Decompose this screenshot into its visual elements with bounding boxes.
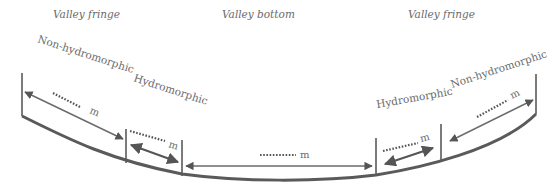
width-unit-bottom: m [300,149,310,160]
width-placeholder-right-hydro [383,143,418,151]
width-unit-left-non-hydro: m [88,105,101,119]
sub-label-left-non-hydromorphic: Non-hydromorphic [36,32,135,75]
width-unit-right-hydro: m [419,131,431,144]
width-placeholder-left-non-hydro [53,93,80,107]
valley-cross-section-diagram: Valley fringe Valley bottom Valley fring… [0,0,555,185]
sub-label-left-hydromorphic: Hydromorphic [132,71,209,106]
zone-label-right-fringe: Valley fringe [408,8,475,20]
zone-label-left-fringe: Valley fringe [53,8,120,20]
width-unit-left-hydro: m [167,138,180,152]
width-arrow-right-non-hydro [450,100,533,141]
width-placeholder-left-hydro [130,131,165,141]
width-arrow-right-hydro [385,148,433,164]
width-unit-right-non-hydro: m [508,87,522,101]
width-arrow-left-non-hydro [25,92,123,139]
sub-label-right-hydromorphic: Hydromorphic [375,85,453,110]
valley-ground-profile [22,114,536,180]
zone-label-valley-bottom: Valley bottom [222,8,295,20]
sub-label-right-non-hydromorphic: Non-hydromorphic [449,47,548,90]
